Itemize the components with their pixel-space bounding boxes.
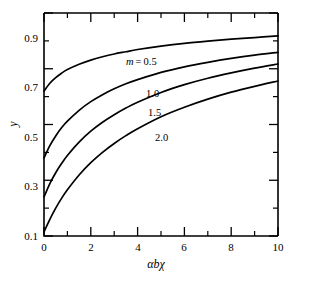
parameter-equals: = [136, 56, 142, 67]
x-tick-label-6: 6 [174, 242, 194, 253]
y-tick-label-0.7: 0.7 [10, 82, 38, 93]
x-axis-title: αbχ [131, 258, 181, 270]
y-tick-label-0.1: 0.1 [10, 231, 38, 242]
curve-2.0 [44, 81, 278, 232]
curve-0.5 [44, 36, 278, 91]
curve-label-0.5: m=0.5 [126, 57, 157, 68]
curve-1.5 [44, 64, 278, 197]
x-tick-label-0: 0 [34, 242, 54, 253]
y-tick-label-0.9: 0.9 [10, 33, 38, 44]
x-tick-label-4: 4 [128, 242, 148, 253]
parameter-symbol: m [126, 56, 134, 67]
curve-label-2.0: 2.0 [155, 133, 168, 144]
x-tick-label-8: 8 [221, 242, 241, 253]
y-tick-label-0.3: 0.3 [10, 181, 38, 192]
figure-container: 0.9 0.7 0.5 0.3 0.1 0 2 4 6 8 10 y αbχ m… [0, 0, 310, 282]
x-tick-label-10: 10 [268, 242, 288, 253]
x-tick-label-2: 2 [81, 242, 101, 253]
curve-value-0.5: 0.5 [144, 56, 157, 67]
curve-label-1.0: 1.0 [146, 89, 159, 100]
curve-label-1.5: 1.5 [148, 108, 161, 119]
y-axis-title: y [7, 114, 19, 134]
